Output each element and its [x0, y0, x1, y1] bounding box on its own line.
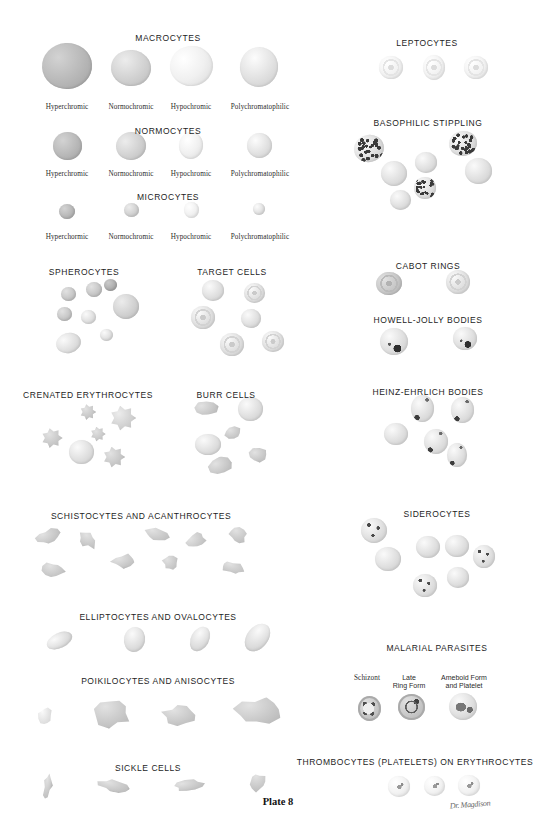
section-title-heinz-ehrlich-bodies: HEINZ-EHRLICH BODIES [372, 387, 483, 397]
cell-thrombocytes-on-erythrocytes [388, 776, 410, 797]
cell-leptocytes [379, 56, 403, 79]
variant-label-microcytes-1: Normochromic [108, 233, 153, 241]
section-title-sickle-cells: SICKLE CELLS [115, 763, 181, 773]
section-title-thrombocytes-on-erythrocytes: THROMBOCYTES (PLATELETS) ON ERYTHROCYTES [297, 757, 534, 767]
variant-label-normocytes-0: Hyperchromic [46, 170, 89, 178]
variant-label-microcytes-2: Hypochromic [171, 233, 212, 241]
cell-malarial-parasites [449, 693, 477, 720]
section-title-macrocytes: MACROCYTES [135, 33, 200, 43]
cell-basophilic-stippling [465, 158, 492, 184]
cell-microcytes [59, 204, 75, 219]
variant-label-normocytes-1: Normochromic [108, 170, 153, 178]
cell-burr-cells [238, 397, 263, 421]
cell-basophilic-stippling [415, 152, 437, 173]
cell-spherocytes [81, 310, 96, 324]
variant-label-macrocytes-3: Polychromatophilic [231, 103, 290, 111]
section-title-target-cells: TARGET CELLS [197, 267, 267, 277]
variant-label-macrocytes-0: Hyperchromic [46, 103, 89, 111]
cell-basophilic-stippling [381, 161, 407, 186]
variant-label-microcytes-0: Hyperchormic [46, 233, 89, 241]
cell-basophilic-stippling [390, 190, 411, 210]
section-title-leptocytes: LEPTOCYTES [396, 38, 458, 48]
section-title-siderocytes: SIDEROCYTES [404, 509, 471, 519]
cell-burr-cells [195, 434, 221, 455]
section-title-schistocytes-acanthrocytes: SCHISTOCYTES AND ACANTHROCYTES [51, 511, 231, 521]
cell-thrombocytes-on-erythrocytes [458, 775, 480, 796]
cell-siderocytes [416, 536, 440, 558]
variant-label-macrocytes-1: Normochromic [108, 103, 153, 111]
cell-spherocytes [100, 329, 113, 341]
section-title-microcytes: MICROCYTES [137, 192, 199, 202]
section-title-howell-jolly-bodies: HOWELL-JOLLY BODIES [374, 315, 483, 325]
cell-microcytes [124, 203, 139, 217]
cell-normocytes [247, 133, 272, 158]
cell-siderocytes [413, 574, 437, 597]
section-title-cabot-rings: CABOT RINGS [396, 261, 460, 271]
cell-microcytes [253, 203, 265, 215]
cell-malarial-parasites [398, 694, 425, 720]
cell-siderocytes [473, 545, 495, 568]
cell-spherocytes [61, 287, 76, 301]
cell-spherocytes [86, 282, 102, 297]
cell-leptocytes [464, 56, 488, 79]
cell-heinz-ehrlich-bodies [447, 443, 467, 467]
variant-label-normocytes-3: Polychromatophilic [231, 170, 290, 178]
cell-target-cells [262, 331, 284, 352]
cell-spherocytes [104, 279, 117, 291]
cell-siderocytes [375, 547, 401, 571]
cell-spherocytes [113, 294, 139, 319]
cell-crenated-erythrocytes [69, 440, 94, 464]
cell-target-cells [241, 309, 261, 328]
cell-spherocytes [57, 307, 72, 321]
section-title-crenated-erythrocytes: CRENATED ERYTHROCYTES [23, 390, 153, 400]
cell-basophilic-stippling [414, 177, 436, 199]
section-title-burr-cells: BURR CELLS [197, 390, 256, 400]
cell-siderocytes [445, 535, 469, 557]
section-title-elliptocytes-ovalocytes: ELLIPTOCYTES AND OVALOCYTES [79, 612, 236, 622]
variant-label-malarial-parasites-0: Schizont [354, 674, 380, 682]
cell-normocytes [53, 132, 82, 160]
section-title-normocytes: NORMOCYTES [135, 126, 201, 136]
cell-target-cells [220, 333, 244, 356]
section-title-poikilocytes-anisocytes: POIKILOCYTES AND ANISOCYTES [81, 676, 235, 686]
cell-howell-jolly-bodies [453, 327, 477, 350]
cell-microcytes [184, 202, 199, 218]
variant-label-normocytes-2: Hypochromic [171, 170, 212, 178]
cell-heinz-ehrlich-bodies [384, 423, 408, 445]
cell-siderocytes [361, 518, 387, 543]
cell-target-cells [244, 283, 265, 303]
variant-label-malarial-parasites-1: Late Ring Form [393, 674, 426, 691]
plate-number: Plate 8 [263, 796, 294, 807]
cell-target-cells [202, 280, 224, 301]
cell-cabot-rings [446, 270, 470, 294]
variant-label-malarial-parasites-2: Ameboid Form and Platelet [441, 674, 487, 691]
cell-heinz-ehrlich-bodies [424, 429, 448, 454]
cell-thrombocytes-on-erythrocytes [424, 776, 445, 796]
cell-target-cells [191, 306, 215, 329]
cell-siderocytes [447, 567, 469, 588]
variant-label-microcytes-3: Polychromatophilic [231, 233, 290, 241]
cell-malarial-parasites [358, 696, 381, 721]
cell-heinz-ehrlich-bodies [451, 397, 474, 423]
cell-leptocytes [423, 55, 445, 80]
cell-howell-jolly-bodies [380, 328, 408, 355]
cell-heinz-ehrlich-bodies [411, 395, 434, 422]
variant-label-macrocytes-2: Hypochromic [171, 103, 212, 111]
section-title-spherocytes: SPHEROCYTES [49, 267, 119, 277]
section-title-basophilic-stippling: BASOPHILIC STIPPLING [374, 118, 483, 128]
section-title-malarial-parasites: MALARIAL PARASITES [386, 643, 487, 653]
